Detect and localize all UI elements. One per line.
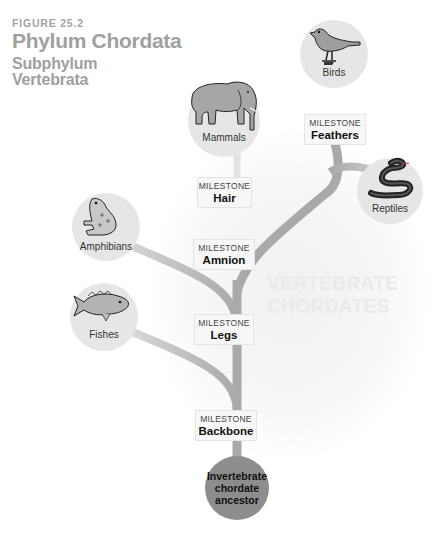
frog-icon	[80, 195, 132, 239]
snake-icon	[361, 157, 421, 201]
elephant-icon	[182, 78, 266, 136]
fish-icon	[66, 288, 136, 324]
milestone-name: Backbone	[196, 424, 256, 438]
root-label-line-3: ancestor	[215, 494, 259, 506]
group-label: Mammals	[188, 132, 260, 143]
group-reptiles: Reptiles	[357, 158, 423, 224]
milestone-caption: MILESTONE	[196, 414, 256, 424]
milestone-caption: MILESTONE	[198, 181, 251, 191]
milestone-feathers: MILESTONE Feathers	[304, 114, 366, 145]
milestone-hair: MILESTONE Hair	[197, 177, 252, 208]
group-fishes: Fishes	[70, 283, 138, 351]
root-label-line-1: Invertebrate	[207, 470, 267, 482]
group-label: Amphibians	[72, 241, 140, 252]
root-label: Invertebrate chordate ancestor	[207, 470, 267, 506]
group-birds: Birds	[300, 20, 368, 88]
milestone-backbone: MILESTONE Backbone	[195, 410, 257, 441]
milestone-legs: MILESTONE Legs	[194, 314, 254, 345]
milestone-name: Amnion	[194, 253, 254, 267]
bird-icon	[308, 24, 362, 66]
milestone-caption: MILESTONE	[194, 243, 254, 253]
milestone-name: Legs	[195, 328, 253, 342]
milestone-caption: MILESTONE	[305, 118, 365, 128]
group-mammals: Mammals	[188, 85, 260, 157]
group-amphibians: Amphibians	[72, 193, 140, 261]
root-ancestor-node: Invertebrate chordate ancestor	[205, 456, 269, 520]
milestone-caption: MILESTONE	[195, 318, 253, 328]
root-label-line-2: chordate	[215, 482, 259, 494]
milestone-amnion: MILESTONE Amnion	[193, 239, 255, 270]
group-label: Birds	[300, 67, 368, 78]
milestone-name: Hair	[198, 191, 251, 205]
group-label: Fishes	[70, 329, 138, 340]
milestone-name: Feathers	[305, 128, 365, 142]
group-label: Reptiles	[357, 203, 423, 214]
